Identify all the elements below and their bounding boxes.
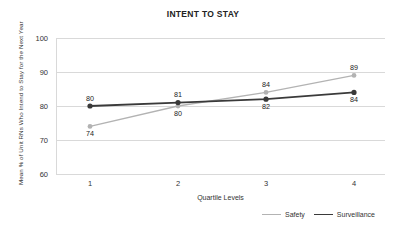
chart-legend: Safety Surveillance — [262, 211, 375, 218]
legend-label-surveillance: Surveillance — [337, 211, 375, 218]
data-point-surveillance-2 — [175, 100, 180, 105]
data-label-surveillance-4: 84 — [341, 95, 367, 104]
data-point-safety-4 — [352, 73, 357, 78]
legend-swatch-surveillance — [314, 214, 333, 215]
series-layer — [0, 0, 406, 232]
data-label-safety-1: 74 — [77, 129, 103, 138]
data-label-safety-4: 89 — [341, 63, 367, 72]
data-label-surveillance-3: 82 — [253, 102, 279, 111]
data-point-surveillance-1 — [87, 103, 92, 108]
data-label-surveillance-2: 81 — [165, 90, 191, 99]
data-point-safety-3 — [264, 90, 269, 95]
legend-item-safety[interactable]: Safety — [262, 211, 305, 218]
data-label-surveillance-1: 80 — [77, 94, 103, 103]
data-label-safety-2: 80 — [165, 109, 191, 118]
data-label-safety-3: 84 — [253, 80, 279, 89]
legend-swatch-safety — [262, 214, 281, 215]
chart-figure: INTENT TO STAY Mean % of Unit RNs Who In… — [0, 0, 406, 232]
legend-item-surveillance[interactable]: Surveillance — [314, 211, 375, 218]
legend-label-safety: Safety — [285, 211, 305, 218]
